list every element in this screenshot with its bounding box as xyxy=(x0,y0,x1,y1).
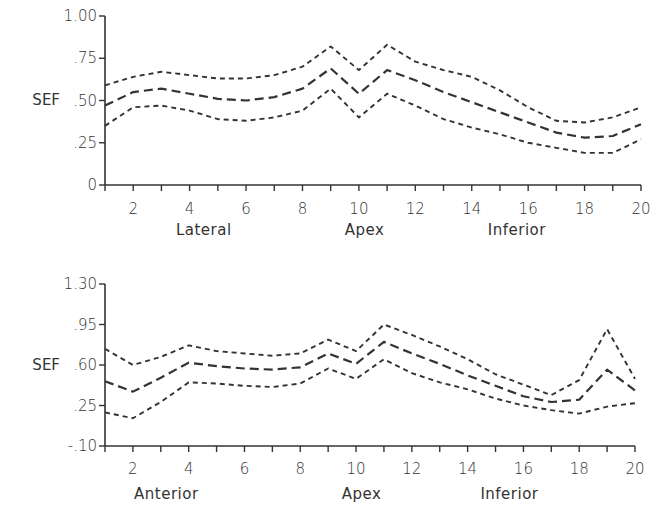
x-tick-label: 10 xyxy=(347,460,366,478)
x-tick-label: 18 xyxy=(575,200,594,218)
x-tick-label: 4 xyxy=(184,460,194,478)
y-tick-label: 0 xyxy=(87,176,97,194)
x-tick-label: 16 xyxy=(514,460,533,478)
x-tick-label: 4 xyxy=(185,200,195,218)
x-tick-label: 20 xyxy=(631,200,650,218)
x-tick-label: 2 xyxy=(128,200,138,218)
series-line-lower xyxy=(105,89,641,153)
y-tick-label: .95 xyxy=(73,316,97,334)
region-label: Lateral xyxy=(176,221,232,239)
x-tick-label: 18 xyxy=(570,460,589,478)
x-tick-label: 14 xyxy=(462,200,481,218)
x-tick-label: 12 xyxy=(402,460,421,478)
x-tick-label: 8 xyxy=(298,200,308,218)
region-label: Apex xyxy=(342,485,382,503)
y-tick-label: 1.30 xyxy=(64,275,97,293)
region-label: Anterior xyxy=(134,485,199,503)
bottom-chart-anterior-apex-inferior: -.10.25.60.951.302468101214161820SEFAnte… xyxy=(32,275,644,503)
y-tick-label: .25 xyxy=(73,397,97,415)
y-tick-label: .50 xyxy=(73,92,97,110)
y-tick-label: .25 xyxy=(73,134,97,152)
series-line-mean xyxy=(105,68,641,137)
y-tick-label: .60 xyxy=(73,356,97,374)
x-tick-label: 6 xyxy=(241,200,251,218)
y-tick-label: .75 xyxy=(73,49,97,67)
region-label: Inferior xyxy=(480,485,538,503)
region-label: Apex xyxy=(345,221,385,239)
x-tick-label: 20 xyxy=(625,460,644,478)
series-line-upper xyxy=(105,45,641,123)
region-label: Inferior xyxy=(488,221,546,239)
x-tick-label: 14 xyxy=(458,460,477,478)
y-tick-label: -.10 xyxy=(68,437,97,455)
series-line-lower xyxy=(105,359,635,418)
x-tick-label: 8 xyxy=(295,460,305,478)
x-tick-label: 6 xyxy=(240,460,250,478)
y-axis-title: SEF xyxy=(32,91,60,109)
y-axis-title: SEF xyxy=(32,356,60,374)
x-tick-label: 12 xyxy=(406,200,425,218)
y-tick-label: 1.00 xyxy=(64,7,97,25)
chart-canvas: 0.25.50.751.002468101214161820SEFLateral… xyxy=(0,0,663,512)
x-tick-label: 10 xyxy=(349,200,368,218)
top-chart-lateral-apex-inferior: 0.25.50.751.002468101214161820SEFLateral… xyxy=(32,7,650,239)
x-tick-label: 16 xyxy=(519,200,538,218)
x-tick-label: 2 xyxy=(128,460,138,478)
